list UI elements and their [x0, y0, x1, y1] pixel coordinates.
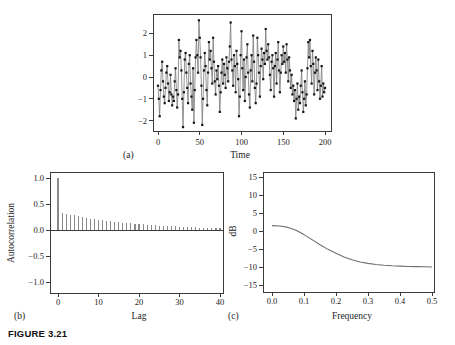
data-point: [201, 124, 203, 126]
data-point: [284, 52, 286, 54]
y-tick-label: 2: [143, 28, 147, 38]
data-point: [210, 50, 212, 52]
x-tick-label: 30: [175, 297, 184, 307]
subplot-c-tag: (c): [228, 311, 239, 321]
data-point: [283, 61, 285, 63]
x-tick-label: 150: [277, 137, 290, 147]
data-point: [258, 72, 260, 74]
data-point: [265, 28, 267, 30]
plot-b-ylabel: Autocorrelation: [6, 203, 16, 263]
data-point: [300, 85, 302, 87]
data-point: [214, 80, 216, 82]
data-point: [165, 72, 167, 74]
data-point: [168, 100, 170, 102]
data-point: [205, 65, 207, 67]
data-point: [278, 69, 280, 71]
data-point: [176, 106, 178, 108]
data-point: [184, 58, 186, 60]
data-point: [289, 69, 291, 71]
x-tick-label: 0.1: [299, 296, 310, 306]
data-point: [281, 63, 283, 65]
data-point: [294, 89, 296, 91]
data-point: [232, 85, 234, 87]
data-point: [261, 58, 263, 60]
data-point: [172, 96, 174, 98]
data-point: [220, 91, 222, 93]
data-point: [306, 93, 308, 95]
data-point: [320, 85, 322, 87]
data-point: [304, 80, 306, 82]
data-point: [322, 82, 324, 84]
data-point: [220, 72, 222, 74]
data-point: [252, 34, 254, 36]
data-point: [291, 74, 293, 76]
data-point: [194, 56, 196, 58]
data-point: [215, 93, 217, 95]
data-point: [311, 82, 313, 84]
x-tick-label: 0.0: [267, 296, 278, 306]
data-point: [217, 65, 219, 67]
data-point: [274, 65, 276, 67]
data-point: [204, 52, 206, 54]
data-point: [316, 89, 318, 91]
y-tick-label: −1: [138, 94, 147, 104]
data-point: [291, 93, 293, 95]
y-tick-label: 1: [143, 50, 147, 60]
data-point: [321, 65, 323, 67]
data-point: [184, 52, 186, 54]
data-point: [219, 111, 221, 113]
data-point: [251, 80, 253, 82]
data-point: [159, 115, 161, 117]
data-point: [173, 100, 175, 102]
data-point: [190, 96, 192, 98]
data-point: [199, 56, 201, 58]
data-point: [211, 82, 213, 84]
data-point: [208, 41, 210, 43]
data-point: [166, 65, 168, 67]
data-point: [226, 67, 228, 69]
data-point: [308, 56, 310, 58]
x-tick-label: 20: [135, 297, 144, 307]
plot-frame: [263, 172, 434, 292]
data-point: [270, 61, 272, 63]
data-point: [179, 50, 181, 52]
y-tick-label: −0.5: [29, 251, 44, 261]
data-point: [267, 43, 269, 45]
data-point: [189, 54, 191, 56]
data-point: [314, 72, 316, 74]
data-point: [292, 85, 294, 87]
figure-3-21: 050100150200−2−1012010203040−1.0−0.50.00…: [0, 0, 455, 345]
data-point: [171, 104, 173, 106]
data-point: [263, 52, 265, 54]
data-point: [323, 91, 325, 93]
data-point: [164, 102, 166, 104]
data-point: [249, 106, 251, 108]
data-point: [158, 98, 160, 100]
data-point: [212, 37, 214, 39]
data-point: [260, 65, 262, 67]
plot-frame: [50, 172, 223, 293]
data-point: [243, 58, 245, 60]
data-point: [196, 54, 198, 56]
data-point: [230, 58, 232, 60]
y-tick-label: 0: [253, 226, 257, 236]
data-point: [210, 67, 212, 69]
x-tick-label: 0.5: [427, 296, 438, 306]
data-point: [236, 63, 238, 65]
data-point: [228, 61, 230, 63]
data-point: [193, 122, 195, 124]
plot-c-xlabel: Frequency: [308, 311, 396, 321]
data-point: [262, 78, 264, 80]
data-point: [282, 45, 284, 47]
data-point: [287, 80, 289, 82]
data-point: [218, 85, 220, 87]
data-point: [180, 69, 182, 71]
plot-b: 010203040−1.0−0.50.00.51.0: [29, 172, 225, 307]
data-point: [324, 87, 326, 89]
data-point: [237, 78, 239, 80]
data-point: [157, 85, 159, 87]
data-point: [295, 117, 297, 119]
data-point: [303, 98, 305, 100]
data-point: [242, 89, 244, 91]
data-point: [230, 21, 232, 23]
